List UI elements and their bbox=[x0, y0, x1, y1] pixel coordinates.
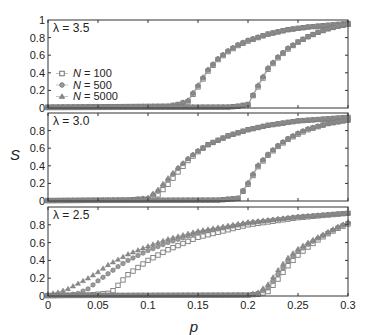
data-series bbox=[46, 115, 350, 203]
y-tick-label: 0.2 bbox=[30, 84, 45, 96]
x-tick-label: 0.25 bbox=[287, 299, 308, 311]
y-tick-label: 0.6 bbox=[30, 142, 45, 154]
y-tick-label: 0 bbox=[39, 195, 45, 207]
data-series bbox=[46, 117, 351, 202]
y-tick-label: 1 bbox=[39, 14, 45, 26]
y-tick-label: 0.8 bbox=[30, 125, 45, 137]
y-tick-label: 0.2 bbox=[30, 272, 45, 284]
x-tick-label: 0 bbox=[45, 299, 51, 311]
y-tick-label: 0.4 bbox=[30, 67, 45, 79]
x-tick-label: 0.05 bbox=[87, 299, 108, 311]
data-series bbox=[46, 115, 350, 203]
y-tick-label: 0 bbox=[39, 102, 45, 114]
panel-label: λ = 3.0 bbox=[53, 114, 90, 128]
data-series bbox=[46, 211, 350, 298]
data-series bbox=[46, 115, 351, 203]
x-axis-title: p bbox=[189, 318, 198, 335]
y-axis-title: S bbox=[10, 146, 20, 163]
chart-panel-3: 00.20.40.60.800.050.10.150.20.250.3λ = 2… bbox=[30, 207, 356, 311]
y-tick-label: 0.6 bbox=[30, 49, 45, 61]
chart-panel-2: 00.20.40.60.8λ = 3.0 bbox=[30, 113, 351, 207]
legend-entry: N = 500 bbox=[73, 79, 112, 91]
panel-label: λ = 3.5 bbox=[53, 21, 90, 35]
legend-entry: N = 100 bbox=[73, 67, 112, 79]
multi-panel-chart: 00.20.40.60.81λ = 3.500.20.40.60.8λ = 3.… bbox=[0, 0, 370, 335]
x-tick-label: 0.3 bbox=[340, 299, 355, 311]
y-tick-label: 0.4 bbox=[30, 254, 45, 266]
y-tick-label: 0.4 bbox=[30, 160, 45, 172]
x-tick-label: 0.1 bbox=[140, 299, 155, 311]
y-tick-label: 0.8 bbox=[30, 219, 45, 231]
y-tick-label: 0.2 bbox=[30, 177, 45, 189]
legend: N = 100N = 500N = 5000 bbox=[56, 67, 118, 102]
x-tick-label: 0.2 bbox=[240, 299, 255, 311]
y-tick-label: 0.6 bbox=[30, 237, 45, 249]
x-tick-label: 0.15 bbox=[187, 299, 208, 311]
panel-label: λ = 2.5 bbox=[53, 208, 90, 222]
panel-frame bbox=[48, 113, 348, 201]
y-tick-label: 0.8 bbox=[30, 32, 45, 44]
legend-entry: N = 5000 bbox=[73, 90, 118, 102]
